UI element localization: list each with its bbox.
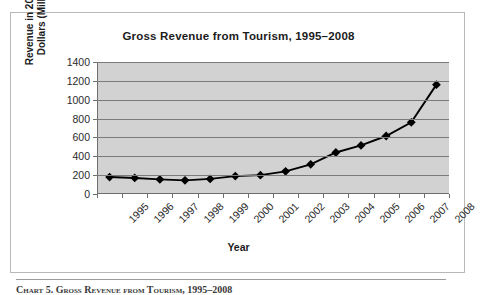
x-tick-mark <box>97 194 98 198</box>
x-tick-mark <box>223 194 224 198</box>
x-tick-mark <box>248 194 249 198</box>
series-marker <box>357 141 366 150</box>
x-tick-label: 1996 <box>151 200 176 225</box>
x-tick-mark <box>273 194 274 198</box>
x-tick-mark <box>399 194 400 198</box>
x-tick-label: 2006 <box>402 200 427 225</box>
series-marker <box>181 176 190 185</box>
y-gridline <box>97 62 449 63</box>
y-tick-mark <box>93 137 97 138</box>
plot-region: 0200400600800100012001400199519961997199… <box>97 62 449 194</box>
y-tick-label: 0 <box>84 188 90 200</box>
x-tick-label: 2003 <box>327 200 352 225</box>
y-axis-title-line2: Dollars (Millions) <box>36 0 49 55</box>
y-tick-mark <box>93 175 97 176</box>
x-tick-label: 2007 <box>427 200 452 225</box>
y-tick-mark <box>93 62 97 63</box>
x-tick-mark <box>424 194 425 198</box>
x-tick-mark <box>198 194 199 198</box>
x-tick-mark <box>122 194 123 198</box>
chart-title: Gross Revenue from Tourism, 1995–2008 <box>11 30 466 42</box>
x-tick-mark <box>348 194 349 198</box>
x-tick-mark <box>147 194 148 198</box>
x-tick-mark <box>172 194 173 198</box>
series-marker <box>105 173 114 182</box>
footer-divider <box>16 279 446 280</box>
x-tick-label: 2005 <box>377 200 402 225</box>
x-tick-label: 2004 <box>352 200 377 225</box>
y-tick-mark <box>93 100 97 101</box>
y-axis-title-line1: Revenue in 2010 U.S. <box>24 0 37 65</box>
y-tick-label: 600 <box>72 131 90 143</box>
figure-container: Gross Revenue from Tourism, 1995–2008 Re… <box>10 12 465 273</box>
y-gridline <box>97 81 449 82</box>
y-gridline <box>97 137 449 138</box>
x-tick-label: 1999 <box>226 200 251 225</box>
x-tick-label: 2008 <box>452 200 477 225</box>
y-tick-mark <box>93 119 97 120</box>
y-tick-label: 400 <box>72 150 90 162</box>
x-tick-mark <box>449 194 450 198</box>
x-tick-mark <box>323 194 324 198</box>
x-tick-label: 1995 <box>125 200 150 225</box>
y-tick-label: 200 <box>72 169 90 181</box>
x-axis-title: Year <box>11 241 466 253</box>
series-marker <box>306 160 315 169</box>
x-tick-label: 1997 <box>176 200 201 225</box>
footer-caption: Chart 5. Gross Revenue from Tourism, 199… <box>16 284 456 295</box>
x-tick-label: 1998 <box>201 200 226 225</box>
y-tick-label: 1000 <box>67 94 90 106</box>
y-tick-label: 1200 <box>67 75 90 87</box>
x-tick-label: 2002 <box>301 200 326 225</box>
y-gridline <box>97 100 449 101</box>
y-axis-title: Revenue in 2010 U.S. Dollars (Millions) <box>23 0 49 85</box>
x-tick-label: 2000 <box>251 200 276 225</box>
y-tick-mark <box>93 156 97 157</box>
series-marker <box>382 132 391 141</box>
x-tick-label: 2001 <box>276 200 301 225</box>
y-tick-mark <box>93 81 97 82</box>
x-tick-mark <box>298 194 299 198</box>
y-gridline <box>97 175 449 176</box>
x-tick-mark <box>374 194 375 198</box>
y-tick-label: 800 <box>72 113 90 125</box>
series-marker <box>155 175 164 184</box>
y-gridline <box>97 156 449 157</box>
y-tick-label: 1400 <box>67 56 90 68</box>
y-gridline <box>97 119 449 120</box>
